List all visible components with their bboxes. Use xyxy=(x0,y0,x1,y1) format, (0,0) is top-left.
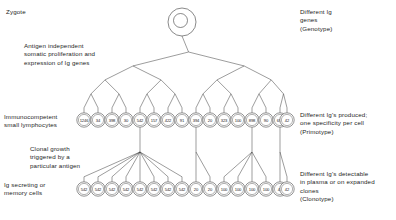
plasma-cell-value: 542 xyxy=(137,187,144,192)
plasma-cell-value: 100 xyxy=(235,187,242,192)
plasma-cell-value: 542 xyxy=(179,187,186,192)
plasma-cell: 542 xyxy=(105,182,119,196)
plasma-cell: 542 xyxy=(119,182,133,196)
plasma-cell: 542 xyxy=(133,182,147,196)
lymphocyte-cell: 422 xyxy=(161,113,175,127)
lymphocyte-cell-value: 422 xyxy=(165,118,172,123)
plasma-cell-value: 100 xyxy=(249,187,256,192)
lymphocyte-cell: 30 xyxy=(119,113,133,127)
plasma-cell-value: 542 xyxy=(109,187,116,192)
plasma-cell: 542 xyxy=(175,182,189,196)
label-antigen-independent-proliferation: Antigen independent somatic proliferatio… xyxy=(24,42,95,67)
plasma-cell-value: 542 xyxy=(81,187,88,192)
plasma-cell: 42 xyxy=(280,182,294,196)
lymphocyte-cell: 20 xyxy=(203,113,217,127)
label-clonal-growth: Clonal growth triggered by a particular … xyxy=(30,145,80,170)
lymphocyte-cell: 90 xyxy=(259,113,273,127)
lymphocyte-cell: 100 xyxy=(231,113,245,127)
lymphocyte-cell-value: 898 xyxy=(249,118,256,123)
lymphocyte-cell: 42 xyxy=(280,113,294,127)
clonal-expansion-lines xyxy=(84,127,287,182)
plasma-cell: 100 xyxy=(259,182,273,196)
plasma-cell-row: 5425425425425425425425422020100100100100… xyxy=(77,182,294,196)
plasma-cell-value: 542 xyxy=(123,187,130,192)
plasma-cell: 542 xyxy=(91,182,105,196)
zygote-cell xyxy=(168,8,196,36)
plasma-cell-value: 100 xyxy=(221,187,228,192)
plasma-cell: 100 xyxy=(217,182,231,196)
plasma-cell: 542 xyxy=(161,182,175,196)
lymphocyte-cell: 898 xyxy=(245,113,259,127)
lymphocyte-cell-value: 398 xyxy=(109,118,116,123)
label-immunocompetent-small-lymphocytes: Immunocompetent small lymphocytes xyxy=(4,113,58,130)
lymphocyte-cell: 542 xyxy=(133,113,147,127)
plasma-cell: 100 xyxy=(245,182,259,196)
figure-canvas: 1246343983054215742291394203231008989069… xyxy=(0,0,396,220)
lymphocyte-cell: 34 xyxy=(91,113,105,127)
plasma-cell: 100 xyxy=(231,182,245,196)
plasma-cell-value: 542 xyxy=(165,187,172,192)
plasma-cell-value: 542 xyxy=(151,187,158,192)
plasma-cell-value: 100 xyxy=(263,187,270,192)
lymphocyte-cell-value: 100 xyxy=(235,118,242,123)
lymphocyte-cell-value: 542 xyxy=(137,118,144,123)
lymphocyte-cell-value: 323 xyxy=(221,118,228,123)
lymphocyte-row: 1246343983054215742291394203231008989069… xyxy=(77,113,294,127)
lymphocyte-cell: 323 xyxy=(217,113,231,127)
plasma-cell-value: 542 xyxy=(95,187,102,192)
lymphocyte-cell: 91 xyxy=(175,113,189,127)
plasma-cell: 542 xyxy=(147,182,161,196)
plasma-cell: 542 xyxy=(77,182,91,196)
label-genotype: Different Ig genes (Genotype) xyxy=(300,8,332,33)
lymphocyte-cell: 1246 xyxy=(77,113,91,127)
lymphocyte-cell: 394 xyxy=(189,113,203,127)
lymphocyte-cell: 398 xyxy=(105,113,119,127)
label-zygote: Zygote xyxy=(6,8,26,16)
lymphocyte-cell-value: 1246 xyxy=(80,118,90,123)
lymphocyte-cell-value: 157 xyxy=(151,118,158,123)
lymphocyte-cell: 157 xyxy=(147,113,161,127)
label-clonotype: Different Ig's detectable in plasma or o… xyxy=(300,170,375,204)
label-ig-secreting-memory-cells: Ig secreting or memory cells xyxy=(4,181,45,198)
tree-branch-lines xyxy=(84,36,287,113)
plasma-cell: 20 xyxy=(203,182,217,196)
plasma-cell: 20 xyxy=(189,182,203,196)
lymphocyte-cell-value: 394 xyxy=(193,118,200,123)
label-primotype: Different Ig's produced; one specificity… xyxy=(300,111,367,136)
